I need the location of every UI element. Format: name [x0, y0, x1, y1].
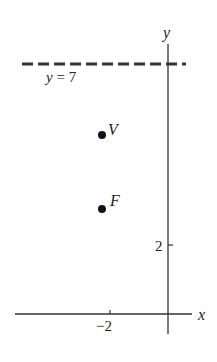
y-axis-label: y — [161, 24, 171, 42]
x-axis-label: x — [197, 306, 205, 323]
x-tick-label-minus-2: −2 — [96, 318, 112, 334]
y-tick-label-2: 2 — [155, 238, 163, 254]
vertex-label: V — [108, 121, 120, 138]
vertex-point — [98, 131, 106, 139]
focus-label: F — [109, 192, 120, 209]
directrix-label: y = 7 — [44, 69, 77, 85]
coordinate-diagram: y x y = 7 V F −2 2 — [0, 0, 217, 362]
focus-point — [98, 205, 106, 213]
